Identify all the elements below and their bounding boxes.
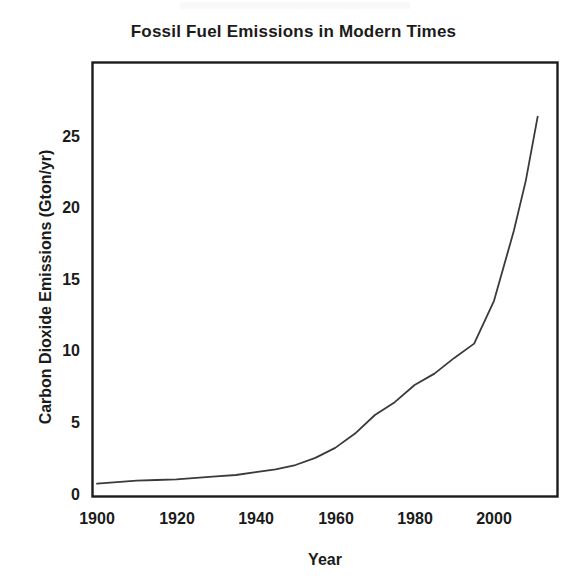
- y-tick-label-5: 5: [34, 414, 80, 432]
- y-tick-label-15: 15: [34, 271, 80, 289]
- chart-figure: Fossil Fuel Emissions in Modern Times Ca…: [0, 0, 587, 588]
- plot-area: [0, 0, 587, 588]
- x-tick-label-1940: 1940: [226, 510, 286, 528]
- plot-frame: [93, 63, 558, 497]
- x-tick-label-2000: 2000: [464, 510, 524, 528]
- x-tick-label-1920: 1920: [147, 510, 207, 528]
- x-tick-label-1900: 1900: [67, 510, 127, 528]
- y-tick-label-0: 0: [34, 486, 80, 504]
- y-tick-label-10: 10: [34, 342, 80, 360]
- x-tick-label-1980: 1980: [385, 510, 445, 528]
- x-tick-label-1960: 1960: [306, 510, 366, 528]
- y-tick-label-25: 25: [34, 128, 80, 146]
- y-tick-label-20: 20: [34, 199, 80, 217]
- x-axis-title: Year: [92, 551, 558, 569]
